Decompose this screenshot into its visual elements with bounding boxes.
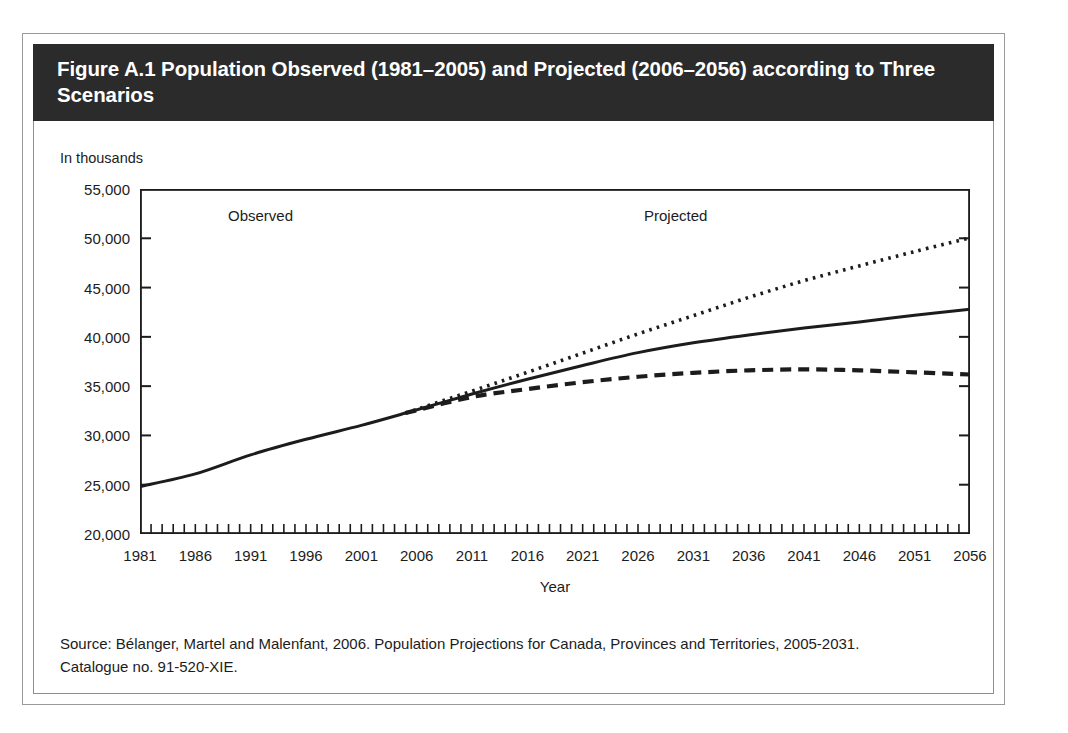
source-line-2: Catalogue no. 91-520-XIE. (60, 655, 960, 678)
x-axis-title: Year (495, 578, 615, 595)
chart-plot-area (140, 189, 970, 534)
figure-title: Figure A.1 Population Observed (1981–200… (57, 56, 967, 108)
figure-title-banner: Figure A.1 Population Observed (1981–200… (33, 44, 994, 121)
annotation-projected: Projected (644, 207, 707, 224)
source-line-1: Source: Bélanger, Martel and Malenfant, … (60, 635, 859, 652)
units-label: In thousands (60, 150, 143, 166)
series-line-solid (140, 413, 406, 486)
annotation-observed: Observed (228, 207, 293, 224)
series-line-dashed (406, 369, 970, 413)
figure-page: Figure A.1 Population Observed (1981–200… (0, 0, 1068, 733)
source-note: Source: Bélanger, Martel and Malenfant, … (60, 632, 960, 678)
series-line-solid (406, 309, 970, 413)
series-line-dotted (406, 238, 970, 413)
population-line-chart (140, 189, 970, 534)
